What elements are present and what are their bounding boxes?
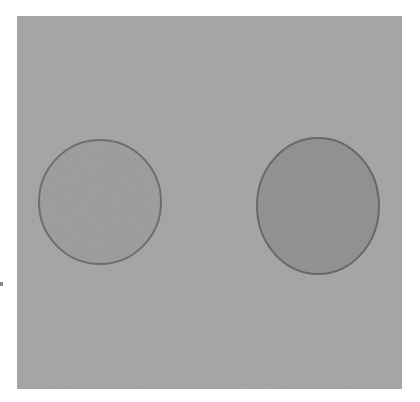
right-circle xyxy=(257,138,379,274)
drawing-canvas xyxy=(17,16,402,389)
left-circle xyxy=(39,140,161,264)
photo xyxy=(17,16,402,389)
edge-mark xyxy=(0,282,3,286)
